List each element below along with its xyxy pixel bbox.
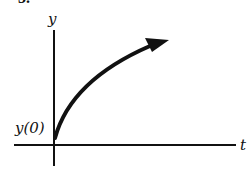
arrowhead-icon [145, 38, 169, 52]
y-axis-label: y [47, 10, 57, 28]
figure-number: 3. [18, 0, 30, 6]
growth-curve-diagram: 3. y t y(0) [0, 0, 252, 186]
solution-curve [55, 46, 150, 138]
initial-value-label: y(0) [14, 119, 45, 137]
x-axis-label: t [240, 136, 247, 154]
